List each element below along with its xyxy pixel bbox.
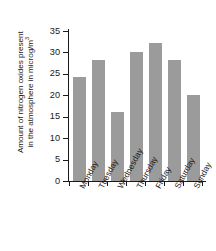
y-axis-tick: 30 — [63, 52, 68, 53]
y-axis-tick: 25 — [63, 74, 68, 75]
x-axis-labels: MondayTuesdayWednesdayThursdayFridaySatu… — [68, 186, 216, 251]
y-axis-title-line-1: Amount of nitrogen oxides present — [16, 32, 26, 154]
y-axis-tick-label: 25 — [50, 70, 60, 79]
y-axis-title: Amount of nitrogen oxides present in the… — [4, 0, 48, 185]
y-axis-tick-label: 30 — [50, 48, 60, 57]
y-axis-tick-label: 10 — [50, 134, 60, 143]
y-axis-title-line-2-text: in the atmosphere in microg/m — [26, 40, 35, 147]
y-axis-title-line-2: in the atmosphere in microg/m3 — [26, 32, 36, 154]
y-axis-tick-label: 35 — [50, 27, 60, 36]
y-axis-tick-label: 20 — [50, 91, 60, 100]
y-axis-tick: 10 — [63, 138, 68, 139]
y-axis-tick: 15 — [63, 117, 68, 118]
y-axis-tick-label: 0 — [55, 177, 60, 186]
y-axis-unit-exponent: 3 — [24, 37, 30, 40]
bar-fill — [168, 60, 181, 181]
y-axis-tick: 20 — [63, 95, 68, 96]
y-axis-tick-label: 5 — [55, 155, 60, 164]
bar — [168, 31, 181, 181]
y-axis-tick: 0 — [63, 181, 68, 182]
bar-chart: Amount of nitrogen oxides present in the… — [0, 0, 216, 251]
y-axis-tick: 35 — [63, 31, 68, 32]
y-axis-tick: 5 — [63, 160, 68, 161]
bar — [73, 31, 86, 181]
bar — [92, 31, 105, 181]
y-axis-tick-label: 15 — [50, 113, 60, 122]
bar-fill — [73, 77, 86, 181]
